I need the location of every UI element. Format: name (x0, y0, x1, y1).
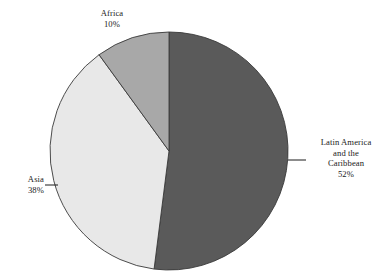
pie-slice-latin-america (154, 32, 288, 270)
pie-label-latin-america: Latin America and the Caribbean 52% (308, 137, 384, 179)
pie-label-africa-percent: 10% (76, 19, 148, 30)
pie-label-asia: Asia 38% (0, 174, 44, 195)
pie-label-latin-america-line1: Latin America (308, 137, 384, 148)
pie-label-africa-name: Africa (76, 8, 148, 19)
pie-label-latin-america-percent: 52% (308, 169, 384, 180)
pie-label-asia-percent: 38% (0, 185, 44, 196)
pie-label-latin-america-line3: Caribbean (308, 158, 384, 169)
pie-label-africa: Africa 10% (76, 8, 148, 29)
pie-label-latin-america-line2: and the (308, 148, 384, 159)
pie-chart-figure: Africa 10% Asia 38% Latin America and th… (0, 0, 384, 277)
pie-label-asia-name: Asia (0, 174, 44, 185)
